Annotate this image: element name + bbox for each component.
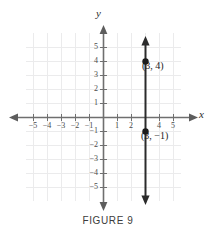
figure-container: −5 −4 −3 −2 −1 1 2 4 5 5 4 3 2 1 −1 −2 −… — [0, 0, 216, 238]
point-label-3-4: (3, 4) — [142, 61, 164, 71]
x-axis-left-arrowhead — [9, 114, 18, 122]
line-top-arrowhead — [141, 36, 149, 46]
y-tick-label: 2 — [86, 85, 98, 93]
y-axis-label: y — [96, 8, 101, 19]
y-tick-label: 4 — [86, 57, 98, 65]
x-tick-label: 2 — [129, 122, 133, 130]
x-axis-label: x — [199, 109, 204, 120]
x-tick-label: 1 — [115, 122, 119, 130]
x-tick-label: −4 — [43, 122, 52, 130]
y-tick-label: −2 — [82, 141, 98, 149]
y-tick-label: 3 — [86, 71, 98, 79]
y-tick-label: 1 — [86, 99, 98, 107]
x-axis-right-arrowhead — [189, 114, 198, 122]
coordinate-plane: −5 −4 −3 −2 −1 1 2 4 5 5 4 3 2 1 −1 −2 −… — [0, 0, 216, 214]
line-bottom-arrowhead — [141, 196, 149, 206]
plot-svg — [0, 0, 216, 214]
x-tick-label: −5 — [29, 122, 38, 130]
y-tick-label: −4 — [82, 169, 98, 177]
figure-caption: FIGURE 9 — [0, 216, 216, 226]
y-tick-label: −5 — [82, 183, 98, 191]
y-tick-label: −1 — [82, 127, 98, 135]
point-label-3-minus-1: (3, −1) — [141, 131, 168, 141]
y-tick-label: 5 — [86, 43, 98, 51]
x-tick-label: −2 — [71, 122, 80, 130]
y-axis-bottom-arrowhead — [100, 202, 108, 211]
x-tick-label: 4 — [157, 122, 161, 130]
x-tick-label: 5 — [171, 122, 175, 130]
y-tick-label: −3 — [82, 155, 98, 163]
x-tick-label: −3 — [57, 122, 66, 130]
y-axis-top-arrowhead — [100, 25, 108, 34]
